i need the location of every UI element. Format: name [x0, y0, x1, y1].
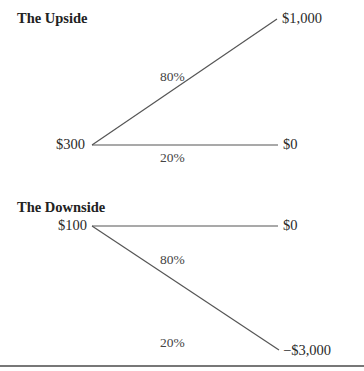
decision-tree-lines [0, 0, 364, 371]
bottom-rule-divider [0, 365, 364, 367]
downside-down-branch-line [92, 226, 279, 350]
upside-up-branch-line [92, 19, 277, 145]
